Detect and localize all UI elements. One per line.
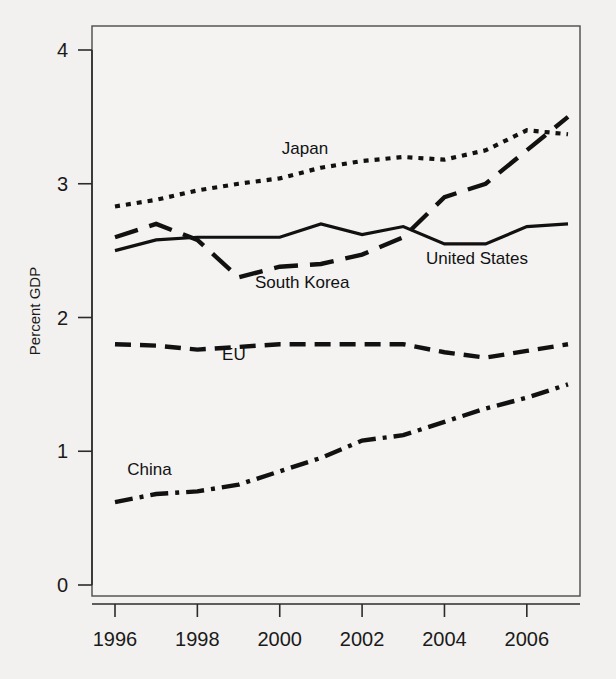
x-tick-label: 1998 xyxy=(175,628,220,650)
x-tick-label: 2002 xyxy=(340,628,385,650)
plot-area-background xyxy=(92,26,580,596)
series-label-united-states: United States xyxy=(426,249,528,268)
x-tick-label: 1996 xyxy=(93,628,138,650)
y-tick-label: 1 xyxy=(57,440,68,462)
y-tick-label: 2 xyxy=(57,307,68,329)
y-tick-label: 0 xyxy=(57,574,68,596)
y-tick-label: 3 xyxy=(57,173,68,195)
x-tick-label: 2000 xyxy=(257,628,302,650)
line-chart: 01234 199619982000200220042006 Percent G… xyxy=(0,0,616,679)
chart-figure: 01234 199619982000200220042006 Percent G… xyxy=(0,0,616,679)
y-axis-title: Percent GDP xyxy=(26,267,43,355)
series-label-japan: Japan xyxy=(282,139,328,158)
series-label-south-korea: South Korea xyxy=(255,273,350,292)
series-label-eu: EU xyxy=(222,345,246,364)
x-tick-label: 2004 xyxy=(422,628,467,650)
series-label-china: China xyxy=(127,460,172,479)
x-tick-label: 2006 xyxy=(505,628,550,650)
y-tick-label: 4 xyxy=(57,39,68,61)
